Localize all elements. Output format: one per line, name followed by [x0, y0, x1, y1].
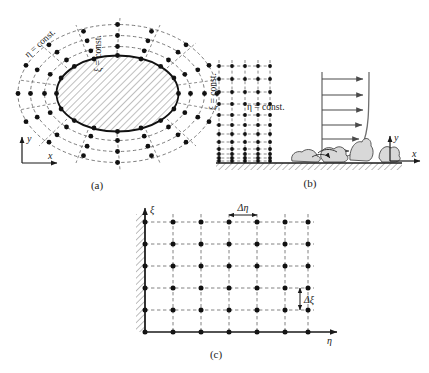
panel-a-axis-y-label: y [26, 133, 32, 144]
panel-b-xi-const-label: ξ = const. [208, 73, 219, 110]
panel-b: ξ = const. η = const. [208, 60, 420, 190]
panel-c-caption: (c) [210, 348, 223, 361]
panel-c-axis-eta-label: η [327, 335, 332, 346]
panel-a-axis-x-label: x [47, 150, 53, 161]
panel-b-profile-arrows [322, 79, 363, 151]
panel-b-nodes [217, 64, 272, 163]
panel-a-caption: (a) [91, 179, 104, 192]
panel-a-xi-const-label: ξ = const. [93, 35, 104, 72]
panel-a-eta-const-label: η = const. [23, 27, 58, 60]
panel-c-wall [136, 214, 145, 332]
panel-b-wall [216, 163, 402, 170]
panel-a: η = const. ξ = const. y x (a) [16, 18, 220, 192]
panel-b-eta-const-label: η = const. [247, 102, 285, 112]
panel-b-caption: (b) [304, 177, 317, 190]
panel-c-xi-lines [173, 214, 308, 332]
panel-c: ξ η Δη Δξ (c) [136, 202, 337, 361]
panel-b-axis-x-label: x [411, 148, 417, 159]
panel-b-roughness-elements [292, 139, 401, 162]
panel-b-axis-y-label: y [393, 132, 399, 143]
panel-c-delta-xi-label: Δξ [303, 294, 315, 306]
figure-root: η = const. ξ = const. y x (a) [0, 0, 429, 373]
panel-c-axis-xi-label: ξ [150, 204, 155, 216]
panel-c-delta-eta-label: Δη [237, 202, 249, 213]
